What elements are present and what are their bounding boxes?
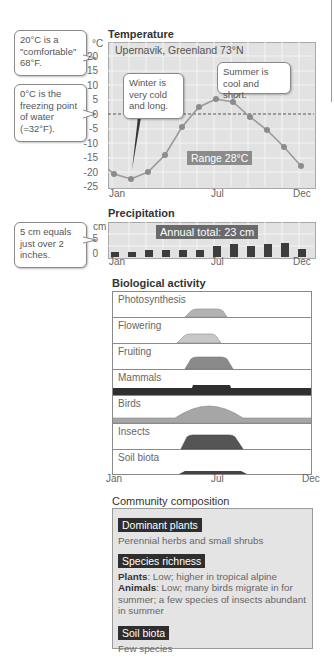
row-mammals: Mammals xyxy=(113,370,312,396)
species-richness-heading: Species richness xyxy=(118,554,205,568)
biological-activity-title: Biological activity xyxy=(112,277,206,289)
precipitation-x-jan: Jan xyxy=(109,256,125,267)
row-soil-biota: Soil biota xyxy=(113,450,312,474)
community-composition-title: Community composition xyxy=(112,495,229,507)
bio-x-jul: Jul xyxy=(211,473,224,484)
dominant-plants-heading: Dominant plants xyxy=(118,518,202,532)
precipitation-annual-total: Annual total: 23 cm xyxy=(156,225,258,239)
precipitation-tick-5: 5 xyxy=(76,233,98,244)
precipitation-x-jul: Jul xyxy=(211,256,224,267)
precipitation-unit: cm xyxy=(93,221,106,232)
row-photosynthesis: Photosynthesis xyxy=(113,292,312,318)
animals-label: Animals xyxy=(118,582,156,593)
callout-winter: Winter is very cold and long. xyxy=(123,73,184,119)
callout-summer: Summer is cool and short. xyxy=(217,62,291,94)
precipitation-tick-0: 0 xyxy=(76,248,98,259)
soil-biota-text: Few species xyxy=(118,643,307,655)
precipitation-x-dec: Dec xyxy=(293,256,311,267)
precipitation-title: Precipitation xyxy=(108,207,175,219)
temperature-x-dec: Dec xyxy=(293,188,311,199)
temperature-location: Upernavik, Greenland 73°N xyxy=(115,44,244,56)
plants-label: Plants xyxy=(118,571,147,582)
dominant-plants-text: Perennial herbs and small shrubs xyxy=(118,535,307,547)
row-insects: Insects xyxy=(113,424,312,450)
row-flowering: Flowering xyxy=(113,318,312,344)
temperature-x-jul: Jul xyxy=(211,188,224,199)
plants-text: : Low; higher in tropical alpine xyxy=(147,571,277,582)
row-fruiting: Fruiting xyxy=(113,344,312,370)
adjacent-figure-edge xyxy=(331,0,332,102)
temperature-unit: °C xyxy=(92,38,103,49)
temperature-title: Temperature xyxy=(108,28,174,40)
bio-x-dec: Dec xyxy=(302,473,320,484)
row-birds: Birds xyxy=(113,396,312,424)
temperature-range-badge: Range 28°C xyxy=(187,151,252,165)
species-richness-text: Plants: Low; higher in tropical alpine A… xyxy=(118,571,307,617)
soil-biota-heading: Soil biota xyxy=(118,626,169,640)
temperature-x-jan: Jan xyxy=(109,188,125,199)
biological-activity-chart: Photosynthesis Flowering Fruiting Mammal… xyxy=(112,291,312,475)
community-composition-box: Dominant plants Perennial herbs and smal… xyxy=(112,508,313,649)
bio-x-jan: Jan xyxy=(106,473,122,484)
